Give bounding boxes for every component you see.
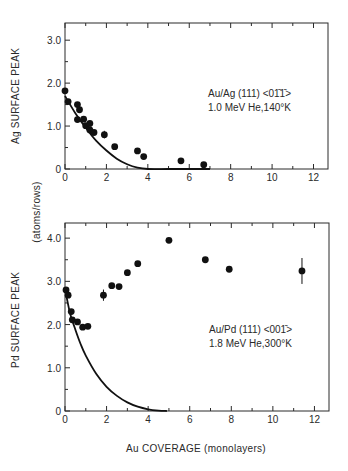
- model-curve: [65, 96, 210, 169]
- data-point: [65, 98, 72, 105]
- bottom-plot-frame: [65, 223, 329, 411]
- data-point: [134, 260, 141, 267]
- y-tick-label: 3.0: [47, 276, 61, 287]
- x-tick-label: 0: [62, 172, 68, 183]
- y-tick-label: 0: [55, 164, 61, 175]
- bottom-panel-pd: 024681012 01.02.03.04.0 Pd SURFACE PEAK …: [10, 181, 329, 454]
- bottom-annotation-line1: Au/Pd (111) <001̄>: [209, 324, 292, 335]
- data-point: [226, 266, 233, 273]
- y-tick-label: 3.0: [47, 35, 61, 46]
- top-y-axis-label: Ag SURFACE PEAK: [10, 48, 21, 144]
- data-point: [202, 256, 209, 263]
- top-panel-ag: 024681012 01.02.03.0 Ag SURFACE PEAK Au/…: [10, 23, 328, 183]
- x-tick-label: 12: [308, 172, 320, 183]
- data-point: [140, 153, 147, 160]
- data-point: [65, 292, 72, 299]
- top-annotation-line1: Au/Ag (111) <01̄1̄>: [208, 88, 291, 99]
- x-tick-label: 12: [309, 414, 321, 425]
- data-point: [74, 319, 81, 326]
- x-tick-label: 6: [186, 172, 192, 183]
- top-data-points: [62, 87, 208, 168]
- y-tick-label: 1.0: [47, 363, 61, 374]
- data-point: [91, 129, 98, 136]
- data-point: [134, 148, 141, 155]
- y-tick-label: 1.0: [47, 121, 61, 132]
- data-point: [166, 237, 173, 244]
- data-point: [299, 268, 306, 275]
- y-tick-label: 2.0: [47, 320, 61, 331]
- top-y-tick-labels: 01.02.03.0: [47, 35, 61, 175]
- x-tick-label: 4: [145, 414, 151, 425]
- data-point: [68, 308, 75, 315]
- top-annotation-line2: 1.0 MeV He,140°K: [208, 102, 291, 113]
- y-tick-label: 0: [55, 406, 61, 417]
- figure: 024681012 01.02.03.0 Ag SURFACE PEAK Au/…: [0, 0, 348, 471]
- y-tick-label: 2.0: [47, 78, 61, 89]
- data-point: [74, 116, 81, 123]
- x-tick-label: 0: [62, 414, 68, 425]
- bottom-model-curve: [66, 294, 167, 411]
- x-tick-label: 4: [145, 172, 151, 183]
- data-point: [124, 269, 131, 276]
- data-point: [111, 143, 118, 150]
- x-tick-label: 8: [228, 172, 234, 183]
- data-point: [62, 87, 69, 94]
- data-point: [76, 106, 83, 113]
- data-point: [100, 292, 107, 299]
- bottom-y-tick-labels: 01.02.03.04.0: [47, 233, 61, 417]
- bottom-x-tick-labels: 024681012: [62, 414, 320, 425]
- data-point: [200, 161, 207, 168]
- y-tick-label: 4.0: [47, 233, 61, 244]
- data-point: [80, 116, 87, 123]
- data-point: [84, 323, 91, 330]
- data-point: [101, 131, 108, 138]
- x-axis-label: Au COVERAGE (monolayers): [126, 443, 266, 454]
- data-point: [178, 157, 185, 164]
- model-curve: [66, 294, 167, 411]
- x-tick-label: 2: [104, 172, 110, 183]
- bottom-y-axis-label: Pd SURFACE PEAK: [10, 272, 21, 368]
- x-tick-label: 6: [187, 414, 193, 425]
- top-model-curve: [65, 96, 210, 169]
- bottom-annotation-line2: 1.8 MeV He,300°K: [209, 338, 292, 349]
- x-tick-label: 10: [267, 414, 279, 425]
- data-point: [116, 283, 123, 290]
- top-x-tick-labels: 024681012: [62, 172, 319, 183]
- x-tick-label: 2: [104, 414, 110, 425]
- x-tick-label: 8: [229, 414, 235, 425]
- bottom-data-points: [63, 237, 306, 331]
- bottom-y-axis-units: (atoms/rows): [31, 181, 42, 242]
- data-point: [86, 120, 93, 127]
- data-point: [108, 282, 115, 289]
- x-tick-label: 10: [267, 172, 279, 183]
